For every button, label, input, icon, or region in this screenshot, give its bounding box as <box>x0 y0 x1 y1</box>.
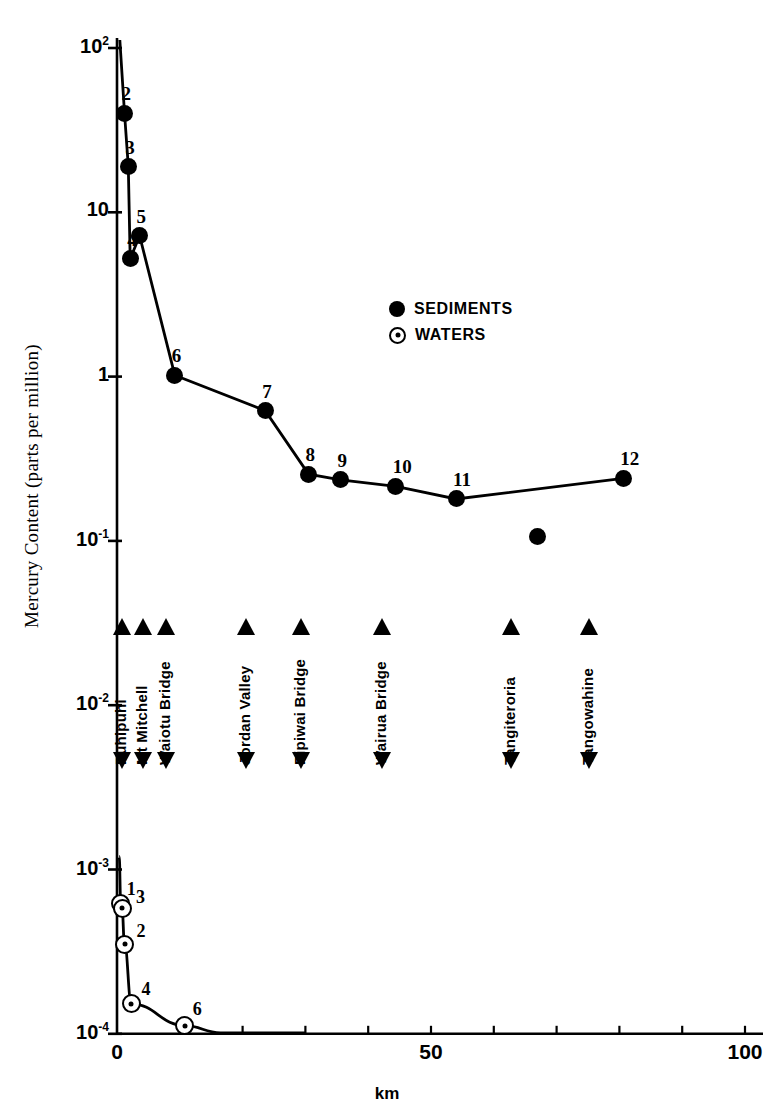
water-data-point <box>115 935 134 954</box>
data-point-label: 2 <box>122 84 132 103</box>
site-label-6: Tangiteroria <box>501 677 518 765</box>
open-circle-icon <box>389 327 406 344</box>
site-label-1: Mt Mitchell <box>133 685 150 765</box>
data-point-label: 12 <box>620 449 639 468</box>
sediment-data-point <box>529 528 546 545</box>
data-point-label: 1 <box>127 880 136 898</box>
y-tick-label-1: 10 <box>87 199 109 219</box>
data-point-label: 9 <box>338 451 348 470</box>
data-point-label: 5 <box>137 207 147 226</box>
legend-item-waters: WATERS <box>389 326 486 344</box>
site-label-3: Jordan Valley <box>236 666 253 765</box>
site-label-5: Wairua Bridge <box>372 661 389 765</box>
data-point-label: 3 <box>136 888 145 906</box>
data-point-label: 3 <box>125 138 135 157</box>
site-up-triangle-icon <box>580 618 598 635</box>
water-data-point <box>122 994 141 1013</box>
site-label-7: Tangowahine <box>579 668 596 765</box>
data-point-label: 11 <box>453 470 471 489</box>
site-up-triangle-icon <box>113 618 131 635</box>
sediment-data-point <box>615 470 632 487</box>
y-tick-label-0: 102 <box>80 35 109 56</box>
x-tick-label-1: 50 <box>419 1041 442 1062</box>
y-tick-label-5: 10-3 <box>76 857 109 878</box>
data-point-label: 10 <box>393 457 412 476</box>
sediment-data-point <box>387 478 404 495</box>
legend-item-sediments: SEDIMENTS <box>389 300 513 318</box>
sediment-data-point <box>448 490 465 507</box>
mercury-content-chart: Mercury Content (parts per million) 1021… <box>0 0 772 1118</box>
site-label-0: Puhipuhi <box>112 699 129 765</box>
site-label-2: Waiotu Bridge <box>156 661 173 765</box>
data-point-label: 6 <box>193 1000 202 1018</box>
legend-label-waters: WATERS <box>415 326 486 344</box>
data-point-label: 8 <box>306 445 316 464</box>
sediment-data-point <box>120 158 137 175</box>
sediment-data-point <box>300 466 317 483</box>
sediment-data-point <box>257 402 274 419</box>
sediment-data-point <box>166 367 183 384</box>
site-up-triangle-icon <box>292 618 310 635</box>
y-tick-label-6: 10-4 <box>76 1021 109 1042</box>
site-up-triangle-icon <box>237 618 255 635</box>
data-point-label: 2 <box>137 922 146 940</box>
data-point-label: 4 <box>141 980 150 998</box>
filled-circle-icon <box>389 301 405 317</box>
y-axis-title: Mercury Content (parts per million) <box>21 286 43 686</box>
sediment-data-point <box>122 250 139 267</box>
y-tick-label-3: 10-1 <box>76 528 109 549</box>
x-axis-title: km <box>375 1084 400 1104</box>
x-tick-label-2: 100 <box>727 1041 762 1062</box>
y-tick-label-2: 1 <box>98 364 109 384</box>
data-point-label: 7 <box>262 382 272 401</box>
sediment-data-point <box>116 105 133 122</box>
water-data-point <box>113 899 132 918</box>
sediment-data-point <box>332 471 349 488</box>
sediment-data-point <box>131 227 148 244</box>
site-label-4: Pipiwai Bridge <box>291 659 308 765</box>
water-data-point <box>175 1016 194 1035</box>
y-tick-label-4: 10-2 <box>76 692 109 713</box>
data-point-label: 6 <box>172 346 182 365</box>
legend-label-sediments: SEDIMENTS <box>414 300 513 318</box>
x-tick-label-0: 0 <box>111 1041 123 1062</box>
site-up-triangle-icon <box>157 618 175 635</box>
site-up-triangle-icon <box>373 618 391 635</box>
site-up-triangle-icon <box>134 618 152 635</box>
axes-and-series-lines <box>0 0 772 1118</box>
site-up-triangle-icon <box>502 618 520 635</box>
